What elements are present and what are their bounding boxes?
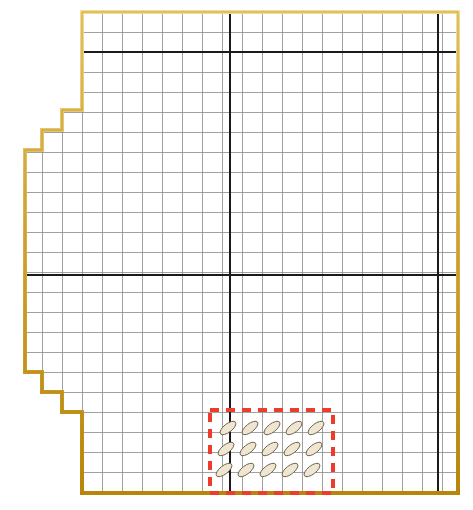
- map-svg: [0, 0, 473, 510]
- map-canvas: [0, 0, 473, 510]
